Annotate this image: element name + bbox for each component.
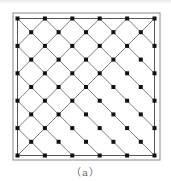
lattice-node [43, 71, 47, 75]
lattice-node [139, 30, 143, 34]
lattice-node [125, 154, 129, 158]
lattice-node [98, 126, 102, 130]
lattice-node [29, 58, 33, 62]
lattice-node [84, 140, 88, 144]
lattice-node [16, 99, 20, 103]
lattice-node [43, 44, 47, 48]
lattice-node [29, 30, 33, 34]
lattice-node [84, 58, 88, 62]
lattice-node [16, 44, 20, 48]
lattice-node [43, 99, 47, 103]
lattice-node [98, 71, 102, 75]
lattice-node [111, 112, 115, 116]
lattice-node [57, 112, 61, 116]
lattice-node [16, 126, 20, 130]
lattice-node [111, 58, 115, 62]
lattice-node [111, 85, 115, 89]
lattice-node [70, 71, 74, 75]
lattice-node [125, 71, 129, 75]
lattice-node [139, 112, 143, 116]
lattice-node [139, 58, 143, 62]
figure-caption: （a） [0, 164, 171, 179]
lattice-node [98, 154, 102, 158]
lattice-node [57, 85, 61, 89]
lattice-node [70, 17, 74, 21]
lattice-node [70, 126, 74, 130]
lattice-node [43, 154, 47, 158]
lattice-node [153, 99, 157, 103]
lattice-node [84, 30, 88, 34]
lattice-node [84, 85, 88, 89]
diamond-lattice-diagram [0, 0, 171, 181]
lattice-node [84, 112, 88, 116]
lattice-node [29, 112, 33, 116]
lattice-node [70, 154, 74, 158]
lattice-node [153, 17, 157, 21]
lattice-node [111, 30, 115, 34]
lattice-node [16, 17, 20, 21]
lattice-node [139, 85, 143, 89]
lattice-node [98, 17, 102, 21]
lattice-node [125, 17, 129, 21]
lattice-node [139, 140, 143, 144]
lattice-node [125, 126, 129, 130]
lattice-node [57, 30, 61, 34]
lattice-node [153, 71, 157, 75]
lattice-node [125, 44, 129, 48]
lattice-node [43, 126, 47, 130]
lattice-node [111, 140, 115, 144]
lattice-node [29, 140, 33, 144]
lattice-node [125, 99, 129, 103]
lattice-node [153, 126, 157, 130]
lattice-node [57, 140, 61, 144]
lattice-node [153, 44, 157, 48]
lattice-node [70, 99, 74, 103]
lattice-node [57, 58, 61, 62]
lattice-node [16, 71, 20, 75]
lattice-node [29, 85, 33, 89]
lattice-node [153, 154, 157, 158]
lattice-node [16, 154, 20, 158]
lattice-node [98, 44, 102, 48]
lattice-node [98, 99, 102, 103]
lattice-node [43, 17, 47, 21]
lattice-node [70, 44, 74, 48]
